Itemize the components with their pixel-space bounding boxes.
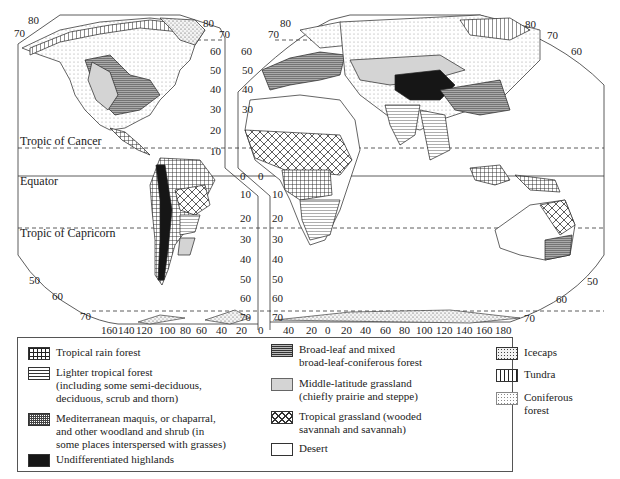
svg-text:20: 20 (272, 212, 284, 224)
legend-item-broad-leaf: Broad-leaf and mixed broad-leaf-conifero… (271, 343, 422, 369)
svg-text:70: 70 (219, 28, 231, 40)
mediterranean-swatch (28, 413, 50, 426)
svg-text:60: 60 (240, 292, 252, 304)
svg-text:20: 20 (240, 212, 252, 224)
svg-text:50: 50 (587, 275, 599, 287)
tropic-of-capricorn-label: Tropic of Capricorn (20, 226, 116, 240)
svg-text:120: 120 (136, 324, 153, 336)
svg-text:120: 120 (436, 324, 453, 336)
svg-text:40: 40 (216, 324, 228, 336)
svg-text:60: 60 (241, 45, 253, 57)
undifferentiated-highlands-swatch (28, 454, 50, 467)
svg-text:20: 20 (210, 124, 222, 136)
svg-text:20: 20 (306, 324, 318, 336)
svg-text:80: 80 (203, 17, 215, 29)
svg-text:30: 30 (240, 233, 252, 245)
svg-text:100: 100 (416, 324, 433, 336)
svg-text:0: 0 (258, 324, 264, 336)
coniferous-forest-swatch (496, 392, 518, 405)
legend-item-mediterranean: Mediterranean maquis, or chaparral, and … (28, 412, 226, 451)
svg-text:70: 70 (268, 28, 280, 40)
svg-text:80: 80 (525, 18, 537, 30)
svg-text:50: 50 (210, 64, 222, 76)
map-legend: Tropical rain forest Lighter tropical fo… (17, 337, 513, 472)
indonesia (470, 165, 560, 192)
svg-text:80: 80 (180, 324, 192, 336)
svg-text:70: 70 (524, 312, 536, 324)
svg-text:70: 70 (80, 310, 92, 322)
asia (340, 15, 540, 160)
svg-text:140: 140 (456, 324, 473, 336)
tropic-of-cancer-label: Tropic of Cancer (20, 134, 102, 148)
svg-text:70: 70 (14, 27, 26, 39)
svg-text:40: 40 (360, 324, 372, 336)
svg-text:20: 20 (341, 324, 353, 336)
svg-text:30: 30 (210, 103, 222, 115)
longitude-labels-west: 160 140 120 100 80 60 40 20 0 (101, 324, 264, 336)
svg-text:60: 60 (52, 290, 64, 302)
australia (495, 200, 575, 260)
svg-text:60: 60 (196, 324, 208, 336)
legend-item-undifferentiated-highlands: Undifferentiated highlands (28, 453, 174, 467)
legend-item-icecaps: Icecaps (496, 346, 557, 360)
svg-text:180: 180 (495, 324, 512, 336)
legend-item-coniferous-forest: Coniferous forest (496, 391, 573, 417)
svg-text:10: 10 (272, 188, 284, 200)
svg-text:0: 0 (258, 170, 264, 182)
svg-text:10: 10 (240, 188, 252, 200)
legend-item-lighter-tropical-forest: Lighter tropical forest (including some … (28, 366, 202, 405)
svg-text:40: 40 (240, 253, 252, 265)
svg-text:40: 40 (210, 83, 222, 95)
icecaps-swatch (496, 347, 518, 360)
svg-text:30: 30 (242, 103, 254, 115)
legend-item-tundra: Tundra (496, 368, 555, 382)
svg-text:10: 10 (210, 145, 222, 157)
svg-text:60: 60 (210, 45, 222, 57)
svg-text:80: 80 (28, 14, 40, 26)
tundra-swatch (496, 369, 518, 382)
desert-swatch (271, 443, 293, 456)
svg-text:80: 80 (399, 324, 411, 336)
lighter-tropical-forest-swatch (28, 367, 50, 380)
world-vegetation-map: Tropic of Cancer Equator Tropic of Capri… (0, 0, 620, 336)
svg-text:40: 40 (242, 83, 254, 95)
svg-text:50: 50 (29, 274, 41, 286)
svg-text:0: 0 (240, 170, 246, 182)
svg-text:70: 70 (272, 311, 284, 323)
svg-text:70: 70 (547, 29, 559, 41)
middle-latitude-grassland-swatch (271, 378, 293, 391)
svg-text:40: 40 (283, 324, 295, 336)
longitude-labels-east: 40 20 0 20 40 60 80 100 120 140 160 180 (283, 324, 512, 336)
svg-text:50: 50 (240, 273, 252, 285)
legend-item-tropical-grassland: Tropical grassland (wooded savannah and … (271, 410, 421, 436)
svg-text:50: 50 (242, 64, 254, 76)
svg-text:80: 80 (280, 17, 292, 29)
svg-text:20: 20 (236, 324, 248, 336)
svg-text:30: 30 (272, 233, 284, 245)
tropical-grassland-swatch (271, 411, 293, 424)
legend-item-desert: Desert (271, 442, 328, 456)
tropical-rain-forest-swatch (28, 347, 50, 360)
svg-text:50: 50 (272, 273, 284, 285)
svg-text:60: 60 (556, 293, 568, 305)
svg-text:40: 40 (272, 253, 284, 265)
svg-text:160: 160 (101, 324, 118, 336)
svg-text:60: 60 (571, 45, 583, 57)
legend-item-tropical-rain-forest: Tropical rain forest (28, 346, 141, 360)
svg-text:60: 60 (380, 324, 392, 336)
svg-text:70: 70 (240, 311, 252, 323)
broad-leaf-swatch (271, 344, 293, 357)
svg-text:160: 160 (476, 324, 493, 336)
svg-text:140: 140 (118, 324, 135, 336)
equator-label: Equator (20, 174, 58, 188)
svg-text:60: 60 (272, 292, 284, 304)
legend-item-middle-latitude-grassland: Middle-latitude grassland (chiefly prair… (271, 377, 418, 403)
south-america (150, 158, 215, 285)
svg-text:0: 0 (325, 324, 331, 336)
svg-text:100: 100 (159, 324, 176, 336)
